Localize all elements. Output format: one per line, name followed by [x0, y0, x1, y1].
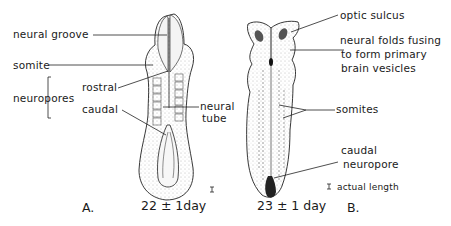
label-neural-folds-2: to form primary [341, 49, 427, 60]
label-somites: somites [336, 104, 379, 115]
panel-a-letter: A. [82, 200, 94, 215]
label-caudal-neuropore-1: caudal [341, 145, 377, 156]
label-neural-folds-1: neural folds fusing [340, 35, 441, 46]
label-somite: somite [13, 60, 50, 71]
label-neuropores: neuropores [13, 93, 74, 104]
label-caudal-neuropore-2: neuropore [343, 159, 399, 170]
label-neural-tube-2: tube [202, 113, 227, 124]
label-actual-length: actual length [337, 182, 399, 193]
embryo-figure: neural groove somite rostral neuropores … [0, 0, 451, 226]
label-neural-tube-1: neural [200, 101, 235, 112]
label-optic-sulcus: optic sulcus [340, 10, 405, 21]
leader-lines [48, 15, 344, 178]
label-rostral: rostral [82, 82, 117, 93]
panel-b-age: 23 ± 1 day [257, 198, 326, 213]
label-caudal: caudal [82, 104, 118, 115]
embryo-b-drawing [247, 21, 299, 197]
label-neural-folds-3: brain vesicles [341, 63, 416, 74]
panel-b-letter: B. [347, 200, 360, 215]
label-neural-groove: neural groove [13, 29, 89, 40]
panel-a-age: 22 ± 1day [141, 198, 206, 213]
